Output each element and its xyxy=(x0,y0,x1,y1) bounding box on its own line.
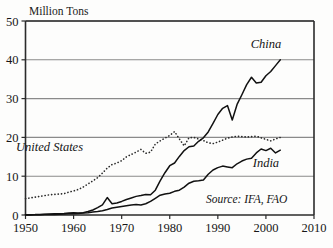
y-axis-tick-labels: 01020304050 xyxy=(6,15,19,223)
x-tick-label-2000: 2000 xyxy=(253,221,278,235)
series-label-united-states: United States xyxy=(16,140,83,154)
x-tick-label-2010: 2010 xyxy=(302,221,327,235)
y-tick-label-40: 40 xyxy=(6,53,19,67)
y-tick-label-50: 50 xyxy=(6,15,19,29)
x-axis-tick-labels: 1950196019701980199020002010 xyxy=(13,221,327,235)
series-label-china: China xyxy=(251,37,282,51)
source-note: Source: IFA, FAO xyxy=(206,193,288,206)
chart-title: Million Tons xyxy=(29,5,89,17)
y-tick-label-10: 10 xyxy=(6,170,19,184)
series-label-india: India xyxy=(252,156,279,170)
x-tick-label-1950: 1950 xyxy=(13,221,38,235)
chart-container: 01020304050 1950196019701980199020002010… xyxy=(0,0,333,248)
x-tick-label-1990: 1990 xyxy=(205,221,230,235)
series-annotations: ChinaUnited StatesIndiaSource: IFA, FAO xyxy=(16,37,288,206)
x-tick-label-1980: 1980 xyxy=(157,221,182,235)
line-chart: 01020304050 1950196019701980199020002010… xyxy=(0,0,333,248)
x-tick-label-1960: 1960 xyxy=(61,221,86,235)
x-tick-label-1970: 1970 xyxy=(109,221,134,235)
y-tick-label-30: 30 xyxy=(6,92,19,106)
